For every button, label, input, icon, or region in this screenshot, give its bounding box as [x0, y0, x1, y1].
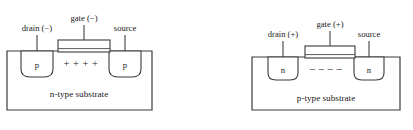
substrate-label-left: n-type substrate — [50, 89, 108, 99]
drain-label-left: drain (−) — [22, 23, 53, 33]
drain-well-label-right: n — [281, 65, 286, 75]
channel-carriers-right: – – – – — [309, 63, 343, 74]
gate-label-left: gate (−) — [70, 13, 97, 23]
diagram-p-channel-mosfet: gate (−) drain (−) source p p + + + + n-… — [0, 0, 206, 130]
drain-label-right: drain (+) — [268, 29, 299, 39]
source-well-label-right: n — [367, 65, 372, 75]
channel-carriers-left: + + + + — [63, 58, 98, 69]
gate-electrode-right — [305, 46, 355, 58]
diagram-n-channel-mosfet: gate (+) drain (+) source n n – – – – p-… — [206, 0, 413, 130]
source-label-right: source — [358, 29, 381, 39]
substrate-label-right: p-type substrate — [297, 93, 355, 103]
source-label-left: source — [114, 23, 137, 33]
drain-well-label-left: p — [35, 60, 39, 70]
mosfet-figure: gate (−) drain (−) source p p + + + + n-… — [0, 0, 413, 130]
gate-label-right: gate (+) — [316, 19, 343, 29]
source-well-label-left: p — [123, 60, 127, 70]
gate-electrode-left — [58, 40, 110, 52]
